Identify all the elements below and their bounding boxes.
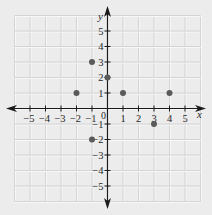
data-point <box>167 90 173 96</box>
x-tick-label: 5 <box>182 113 187 124</box>
y-tick-label: −3 <box>92 150 103 161</box>
x-tick-label: 1 <box>120 113 125 124</box>
x-tick-label: −4 <box>39 113 51 124</box>
data-point <box>105 75 111 81</box>
x-tick-label: −2 <box>70 113 81 124</box>
x-axis-label: x <box>196 108 202 120</box>
origin-label: 0 <box>101 110 106 121</box>
y-tick-label: 5 <box>98 26 103 37</box>
y-tick-label: 4 <box>98 41 104 52</box>
y-tick-label: −4 <box>92 165 104 176</box>
x-tick-label: 4 <box>167 113 173 124</box>
y-tick-label: 1 <box>98 88 103 99</box>
x-tick-label: −5 <box>23 113 34 124</box>
y-tick-label: −5 <box>92 181 103 192</box>
y-tick-label: 3 <box>98 57 103 68</box>
x-tick-label: 2 <box>136 113 141 124</box>
data-point <box>74 90 80 96</box>
data-point <box>120 90 126 96</box>
x-tick-label: −3 <box>54 113 65 124</box>
data-point <box>151 121 157 127</box>
data-point <box>89 137 95 143</box>
axes <box>6 6 206 209</box>
y-axis-label: y <box>97 10 103 22</box>
coordinate-plane: −5−4−3−2−112345−5−4−3−2−112345 x y 0 <box>0 0 212 215</box>
y-tick-label: 2 <box>98 72 103 83</box>
data-point <box>89 59 95 65</box>
